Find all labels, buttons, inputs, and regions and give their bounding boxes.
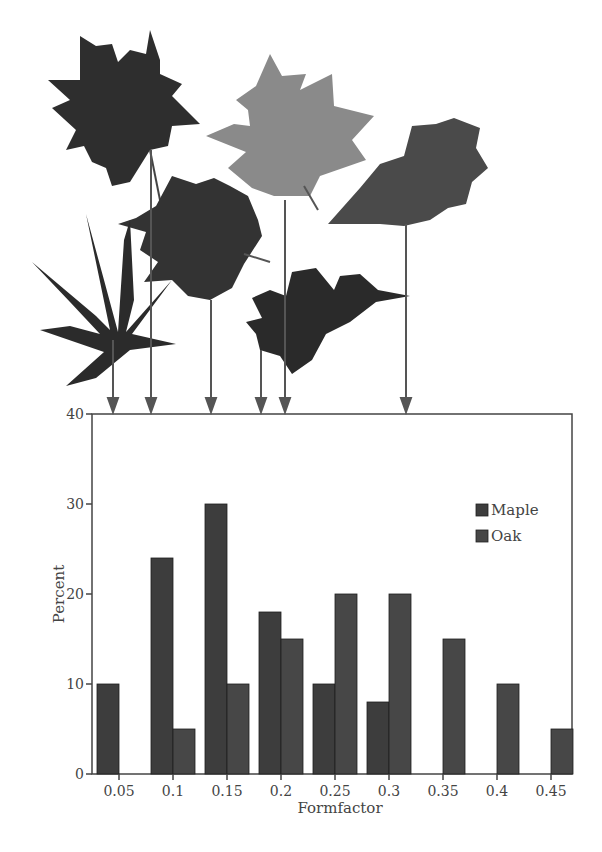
bar-oak-0.2: [281, 639, 303, 774]
x-tick-0.4: 0.4: [486, 783, 508, 799]
legend-swatch-oak: [476, 530, 488, 542]
leaf-images: [32, 30, 488, 386]
bar-oak-0.15: [227, 684, 249, 774]
bar-oak-0.45: [551, 729, 573, 774]
x-axis: 0.050.10.150.20.250.30.350.40.45: [103, 774, 566, 799]
legend-swatch-maple: [476, 504, 488, 516]
y-tick-40: 40: [66, 406, 84, 422]
bar-maple-0.1: [151, 558, 173, 774]
x-tick-0.05: 0.05: [103, 783, 134, 799]
bar-maple-0.25: [313, 684, 335, 774]
bar-oak-0.4: [497, 684, 519, 774]
x-tick-0.3: 0.3: [378, 783, 400, 799]
legend-label-maple: Maple: [491, 501, 539, 519]
x-tick-0.2: 0.2: [270, 783, 292, 799]
bar-oak-0.25: [335, 594, 357, 774]
leaf-red-maple-icon: [118, 176, 262, 300]
x-tick-0.15: 0.15: [211, 783, 242, 799]
y-axis: [86, 414, 92, 774]
legend: Maple Oak: [476, 501, 539, 545]
y-tick-20: 20: [66, 586, 84, 602]
leaf-pin-oak-icon: [48, 30, 200, 186]
chart-figure: 0 10 20 30 40 0.050.10.150.20.250.30.350…: [0, 0, 602, 852]
legend-label-oak: Oak: [491, 527, 522, 545]
bar-maple-0.3: [367, 702, 389, 774]
leaf-sugar-maple-icon: [206, 54, 374, 196]
x-tick-0.35: 0.35: [427, 783, 458, 799]
y-tick-10: 10: [66, 676, 84, 692]
bar-maple-0.15: [205, 504, 227, 774]
bar-maple-0.2: [259, 612, 281, 774]
y-axis-title: Percent: [50, 565, 68, 623]
leaf-black-oak-icon: [246, 268, 410, 374]
y-tick-0: 0: [75, 766, 84, 782]
x-axis-title: Formfactor: [297, 799, 383, 817]
bar-oak-0.3: [389, 594, 411, 774]
x-tick-0.25: 0.25: [319, 783, 350, 799]
x-tick-0.1: 0.1: [162, 783, 184, 799]
x-tick-0.45: 0.45: [535, 783, 566, 799]
bar-oak-0.1: [173, 729, 195, 774]
bar-oak-0.35: [443, 639, 465, 774]
bar-maple-0.05: [97, 684, 119, 774]
y-tick-30: 30: [66, 496, 84, 512]
